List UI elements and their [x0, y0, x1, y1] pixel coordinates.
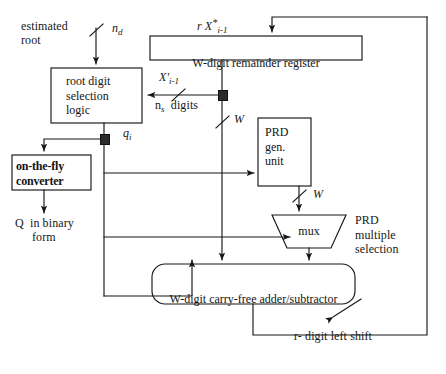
prd-gen-unit-label: PRD gen. unit: [265, 125, 311, 169]
quotient-output-label: Q in binary form: [15, 216, 74, 244]
qi-to-converter-wire: [44, 139, 101, 151]
left-shift-label: r- digit left shift: [294, 330, 372, 343]
on-the-fly-converter-label: on-the-fly converter: [16, 159, 91, 188]
remainder-bus-junction-node: [218, 90, 228, 101]
remainder-register-text: -digit remainder register: [203, 56, 320, 70]
adder-subtractor-text: -digit carry-free adder/subtractor: [180, 292, 337, 306]
root-digit-label: qi: [123, 127, 132, 144]
adder-subtractor-label: W-digit carry-free adder/subtractor: [152, 277, 355, 306]
input-remainder-label: r X*i-1: [197, 16, 227, 37]
root-digit-bus-junction-node: [100, 134, 110, 145]
root-digit-selection-label: root digit selection logic: [66, 74, 144, 118]
ns-digits-label: ns digits: [155, 99, 198, 116]
diagram-canvas: W-digit remainder register root digit se…: [0, 0, 446, 374]
feedback-to-remainder-wire: [272, 17, 427, 32]
remainder-register-label: W-digit remainder register: [150, 41, 362, 70]
estimated-root-label: estimated root: [21, 19, 68, 47]
partial-remainder-label: X'i-1: [159, 71, 179, 88]
prd-multiple-selection-label: PRD multiple selection: [355, 213, 399, 257]
mux-label: mux: [272, 224, 346, 239]
nd-bus-label: nd: [112, 22, 123, 39]
w-bus-top-label: W: [234, 113, 244, 126]
w-bus-prd-label: W: [313, 188, 323, 201]
